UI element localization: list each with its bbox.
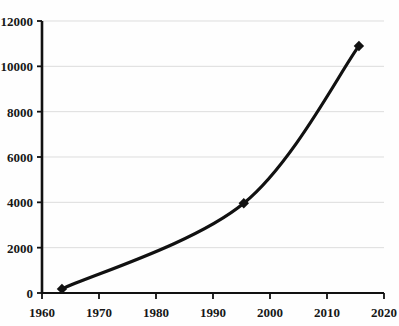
data-line: [62, 46, 359, 289]
y-tick-label: 8000: [0, 105, 33, 118]
x-tick-label: 1980: [143, 306, 169, 319]
x-tick-label: 1960: [29, 306, 55, 319]
y-tick-label: 6000: [0, 151, 33, 164]
x-tick-label: 1990: [200, 306, 226, 319]
x-tick-label: 2020: [371, 306, 397, 319]
x-tick-label: 2000: [257, 306, 283, 319]
x-tick-label: 2010: [314, 306, 340, 319]
data-markers: [57, 41, 364, 294]
y-tick-label: 12000: [0, 15, 33, 28]
gridlines: [42, 21, 384, 293]
y-tick-label: 0: [0, 287, 33, 300]
plot-area: [0, 0, 399, 326]
y-tick-label: 4000: [0, 196, 33, 209]
line-chart: 020004000600080001000012000 196019701980…: [0, 0, 399, 326]
x-tick-label: 1970: [86, 306, 112, 319]
y-tick-label: 2000: [0, 241, 33, 254]
y-tick-label: 10000: [0, 60, 33, 73]
